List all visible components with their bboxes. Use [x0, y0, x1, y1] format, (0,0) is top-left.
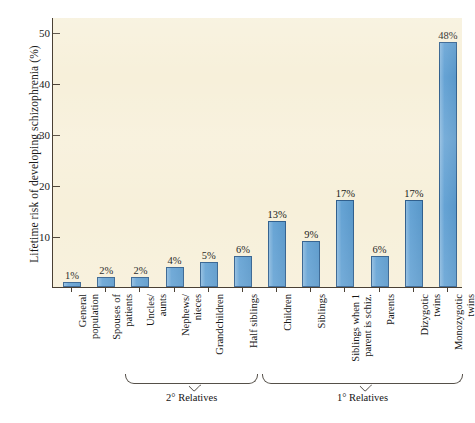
bar-value-label: 4%	[168, 255, 182, 266]
x-axis-tick	[344, 288, 345, 292]
y-axis-tick: 10	[53, 237, 60, 238]
x-axis-tick	[174, 288, 175, 292]
y-axis-tick-label: 30	[39, 129, 50, 141]
bar[interactable]: 6%	[371, 256, 389, 287]
bar-value-label: 48%	[438, 30, 457, 41]
bar[interactable]: 48%	[439, 42, 457, 287]
x-axis-tick	[310, 288, 311, 292]
bar-value-label: 17%	[404, 188, 423, 199]
x-axis-tick	[413, 288, 414, 292]
y-axis-tick: 40	[53, 84, 60, 85]
y-axis-title: Lifetime risk of developing schizophreni…	[28, 14, 40, 294]
y-axis-tick-label: 20	[39, 180, 50, 192]
bar-value-label: 2%	[99, 265, 113, 276]
y-axis-tick-label: 40	[39, 78, 50, 90]
group-bracket-label: 1° Relatives	[263, 392, 463, 403]
group-bracket: 1° Relatives	[262, 374, 464, 384]
bar-value-label: 9%	[304, 229, 318, 240]
bar[interactable]: 17%	[405, 200, 423, 287]
plot-area: 5040302010 1%2%2%4%5%6%13%9%17%6%17%48%	[52, 18, 462, 288]
bar[interactable]: 6%	[234, 256, 252, 287]
x-axis-tick	[447, 288, 448, 292]
y-axis-tick-label: 50	[39, 27, 50, 39]
bar-value-label: 1%	[65, 270, 79, 281]
bar[interactable]: 2%	[131, 277, 149, 287]
bar[interactable]: 9%	[302, 241, 320, 287]
group-bracket: 2° Relatives	[125, 374, 258, 384]
bar-value-label: 17%	[336, 188, 355, 199]
x-axis-tick	[379, 288, 380, 292]
bar[interactable]: 1%	[63, 282, 81, 287]
y-axis-tick: 20	[53, 186, 60, 187]
bar-value-label: 2%	[133, 265, 147, 276]
x-axis-tick	[208, 288, 209, 292]
group-bracket-label: 2° Relatives	[126, 392, 257, 403]
x-axis-tick	[242, 288, 243, 292]
y-axis-tick: 50	[53, 33, 60, 34]
bar-value-label: 6%	[236, 244, 250, 255]
y-axis-tick-label: 10	[39, 231, 50, 243]
schizophrenia-risk-chart: Lifetime risk of developing schizophreni…	[0, 0, 475, 423]
bar-value-label: 13%	[267, 209, 286, 220]
bar[interactable]: 13%	[268, 221, 286, 287]
x-axis-label: General population	[77, 294, 100, 414]
x-axis-tick	[71, 288, 72, 292]
bar-value-label: 6%	[373, 244, 387, 255]
bar[interactable]: 4%	[166, 267, 184, 287]
bar[interactable]: 2%	[97, 277, 115, 287]
x-axis-tick	[139, 288, 140, 292]
bar[interactable]: 17%	[336, 200, 354, 287]
bar-value-label: 5%	[202, 250, 216, 261]
x-axis-tick	[276, 288, 277, 292]
y-axis-tick: 30	[53, 135, 60, 136]
x-axis-tick	[105, 288, 106, 292]
bar[interactable]: 5%	[200, 262, 218, 287]
